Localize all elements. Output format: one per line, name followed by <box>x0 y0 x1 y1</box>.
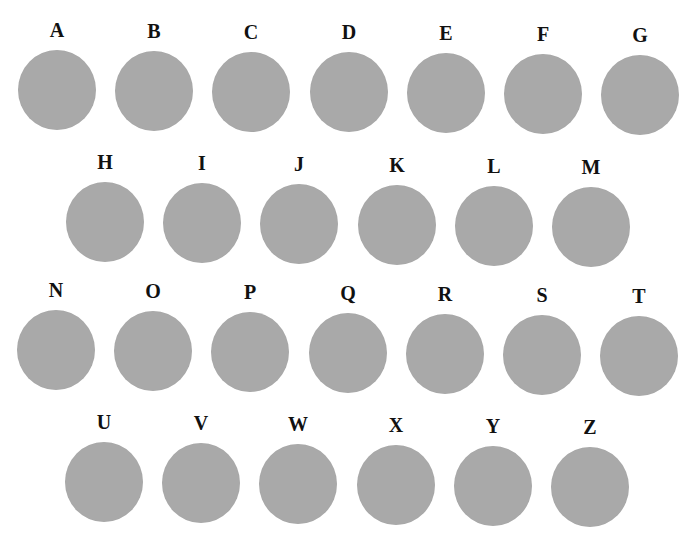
sample-label: M <box>551 157 631 177</box>
sample-label: Y <box>453 416 533 436</box>
sample-f: F <box>503 24 583 144</box>
sample-n: N <box>16 280 96 400</box>
gray-disc <box>358 185 436 265</box>
sample-w: W <box>258 414 338 534</box>
gray-disc <box>66 182 144 262</box>
gray-disc <box>212 52 290 132</box>
sample-d: D <box>309 22 389 142</box>
sample-i: I <box>162 153 242 273</box>
gray-disc <box>600 316 678 396</box>
sample-label: C <box>211 22 291 42</box>
sample-label: Z <box>550 417 630 437</box>
gray-disc <box>407 53 485 133</box>
sample-t: T <box>599 286 679 406</box>
sample-v: V <box>161 413 241 533</box>
gray-disc <box>18 50 96 130</box>
gray-disc <box>163 183 241 263</box>
gray-disc <box>357 445 435 525</box>
gray-disc <box>601 55 679 135</box>
sample-label: B <box>114 21 194 41</box>
sample-label: I <box>162 153 242 173</box>
sample-label: S <box>502 285 582 305</box>
sample-label: J <box>259 154 339 174</box>
gray-disc <box>552 187 630 267</box>
sample-label: D <box>309 22 389 42</box>
gray-disc <box>259 444 337 524</box>
gray-disc <box>406 314 484 394</box>
gray-disc <box>310 52 388 132</box>
sample-label: K <box>357 155 437 175</box>
sample-label: F <box>503 24 583 44</box>
sample-label: V <box>161 413 241 433</box>
sample-label: P <box>210 282 290 302</box>
sample-p: P <box>210 282 290 402</box>
sample-r: R <box>405 284 485 404</box>
sample-b: B <box>114 21 194 141</box>
sample-label: W <box>258 414 338 434</box>
gray-disc <box>260 184 338 264</box>
sample-label: N <box>16 280 96 300</box>
gray-disc <box>115 51 193 131</box>
sample-label: R <box>405 284 485 304</box>
sample-label: G <box>600 25 680 45</box>
sample-m: M <box>551 157 631 277</box>
gray-disc <box>211 312 289 392</box>
sample-g: G <box>600 25 680 145</box>
sample-x: X <box>356 415 436 535</box>
sample-z: Z <box>550 417 630 537</box>
sample-label: A <box>17 20 97 40</box>
sample-e: E <box>406 23 486 143</box>
gray-disc <box>551 447 629 527</box>
gray-disc <box>504 54 582 134</box>
gray-disc <box>65 442 143 522</box>
sample-label: U <box>64 412 144 432</box>
gray-disc <box>114 311 192 391</box>
sample-label: E <box>406 23 486 43</box>
sample-c: C <box>211 22 291 142</box>
sample-k: K <box>357 155 437 275</box>
gray-disc <box>455 186 533 266</box>
sample-a: A <box>17 20 97 140</box>
sample-label: X <box>356 415 436 435</box>
sample-l: L <box>454 156 534 276</box>
sample-o: O <box>113 281 193 401</box>
gray-disc <box>454 446 532 526</box>
sample-j: J <box>259 154 339 274</box>
gray-disc <box>309 313 387 393</box>
gray-disc <box>503 315 581 395</box>
sample-label: H <box>65 152 145 172</box>
sample-y: Y <box>453 416 533 536</box>
sample-q: Q <box>308 283 388 403</box>
sample-label: Q <box>308 283 388 303</box>
gray-disc <box>162 443 240 523</box>
sample-label: L <box>454 156 534 176</box>
sample-h: H <box>65 152 145 272</box>
gray-disc <box>17 310 95 390</box>
sample-s: S <box>502 285 582 405</box>
sample-label: O <box>113 281 193 301</box>
sample-u: U <box>64 412 144 532</box>
sample-label: T <box>599 286 679 306</box>
